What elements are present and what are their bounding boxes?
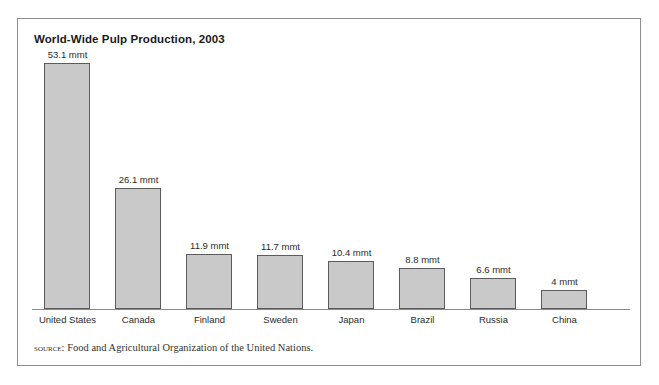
x-axis-baseline: [32, 309, 630, 310]
category-label: China: [529, 314, 600, 325]
bar: [399, 268, 445, 309]
category-label: Canada: [103, 314, 174, 325]
figure-frame: World-Wide Pulp Production, 2003 53.1 mm…: [17, 18, 641, 366]
bar-value-label: 11.7 mmt: [245, 241, 316, 252]
bar-value-label: 6.6 mmt: [458, 264, 529, 275]
bar-value-label: 11.9 mmt: [174, 240, 245, 251]
bar-group: 53.1 mmt: [32, 63, 103, 309]
bar-group: 4 mmt: [529, 63, 600, 309]
category-label: Sweden: [245, 314, 316, 325]
category-label: Russia: [458, 314, 529, 325]
x-axis-tick-labels: United StatesCanadaFinlandSwedenJapanBra…: [32, 314, 628, 334]
bar-value-label: 8.8 mmt: [387, 254, 458, 265]
bar-value-label: 26.1 mmt: [103, 174, 174, 185]
bar-group: 10.4 mmt: [316, 63, 387, 309]
bar-value-label: 4 mmt: [529, 276, 600, 287]
bar-group: 6.6 mmt: [458, 63, 529, 309]
category-label: Brazil: [387, 314, 458, 325]
bar-group: 8.8 mmt: [387, 63, 458, 309]
bar: [328, 261, 374, 309]
bar: [541, 290, 587, 309]
source-note: source: Food and Agricultural Organizati…: [34, 342, 313, 353]
bar-group: 26.1 mmt: [103, 63, 174, 309]
page-title: World-Wide Pulp Production, 2003: [34, 33, 225, 45]
bar: [257, 255, 303, 309]
bar: [115, 188, 161, 309]
source-label: source:: [34, 342, 65, 353]
bar: [44, 63, 90, 309]
bar: [470, 278, 516, 309]
source-text: Food and Agricultural Organization of th…: [67, 342, 313, 353]
bar-group: 11.7 mmt: [245, 63, 316, 309]
chart-plot-area: 53.1 mmt26.1 mmt11.9 mmt11.7 mmt10.4 mmt…: [32, 63, 628, 309]
category-label: Finland: [174, 314, 245, 325]
bar-group: 11.9 mmt: [174, 63, 245, 309]
category-label: United States: [32, 314, 103, 325]
category-label: Japan: [316, 314, 387, 325]
bar-value-label: 53.1 mmt: [32, 49, 103, 60]
bar-value-label: 10.4 mmt: [316, 247, 387, 258]
bar-series: 53.1 mmt26.1 mmt11.9 mmt11.7 mmt10.4 mmt…: [32, 63, 628, 309]
bar: [186, 254, 232, 309]
